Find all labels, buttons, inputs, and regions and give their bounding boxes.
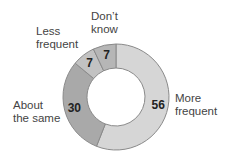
segment-value-label: 7 <box>103 48 110 62</box>
segment-value-label: 56 <box>152 98 166 112</box>
label-dont-know: Don’t know <box>91 10 118 36</box>
label-about-the-same: About the same <box>13 99 60 125</box>
label-line: frequent <box>175 105 217 118</box>
label-line: Don’t <box>91 10 118 23</box>
label-line: Less <box>36 25 78 38</box>
label-more-frequent: More frequent <box>175 92 217 118</box>
segment-value-label: 30 <box>68 101 82 115</box>
label-line: About <box>13 99 60 112</box>
segment-value-label: 7 <box>86 56 93 70</box>
label-line: frequent <box>36 38 78 51</box>
label-line: More <box>175 92 217 105</box>
label-less-frequent: Less frequent <box>36 25 78 51</box>
label-line: know <box>91 23 118 36</box>
label-line: the same <box>13 112 60 125</box>
